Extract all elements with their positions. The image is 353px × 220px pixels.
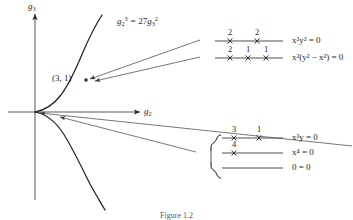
root-line-upper-row-1 bbox=[215, 55, 283, 60]
lower-group-brace bbox=[211, 135, 221, 178]
multiplicity-label: 3 bbox=[229, 125, 239, 134]
x-axis-label: g2 bbox=[144, 107, 152, 117]
root-line-upper-row-0 bbox=[215, 38, 283, 43]
point-3-1-marker bbox=[84, 78, 87, 81]
curve-equation-label: g23 = 27g32 bbox=[117, 16, 158, 27]
multiplicity-label: 1 bbox=[243, 45, 253, 54]
discriminant-curve-lower-branch bbox=[35, 112, 105, 210]
equation-label: 0 = 0 bbox=[292, 163, 311, 172]
y-axis-label: g3 bbox=[28, 2, 36, 12]
figure-caption: Figure 1.2 bbox=[0, 211, 353, 220]
root-line-lower-row-1 bbox=[222, 150, 283, 155]
equation-label: x²y² = 0 bbox=[292, 36, 320, 45]
multiplicity-label: 2 bbox=[225, 28, 235, 37]
figure-container: g3 g2 g23 = 27g32 (3, 1) 2 2 2 1 1 x²y² … bbox=[0, 0, 353, 220]
multiplicity-label: 2 bbox=[225, 45, 235, 54]
multiplicity-label: 1 bbox=[261, 45, 271, 54]
leader-line-upper-2 bbox=[95, 57, 200, 81]
point-coordinate-label: (3, 1) bbox=[52, 74, 72, 83]
equation-label: x⁴ = 0 bbox=[292, 148, 314, 157]
multiplicity-label: 4 bbox=[229, 140, 239, 149]
figure-graphics bbox=[0, 0, 353, 220]
discriminant-curve-upper-branch bbox=[35, 15, 102, 112]
multiplicity-label: 1 bbox=[254, 125, 264, 134]
equation-label: x³y = 0 bbox=[292, 133, 318, 142]
multiplicity-label: 2 bbox=[252, 28, 262, 37]
equation-label: x²(y² − x²) = 0 bbox=[292, 53, 343, 62]
leader-line-upper-1 bbox=[90, 40, 200, 79]
